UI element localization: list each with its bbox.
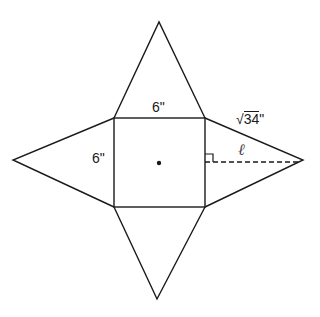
radical-sign: √ <box>236 111 244 127</box>
left-edge-label: 6" <box>92 151 105 165</box>
net-drawing <box>0 0 320 317</box>
triangle-bottom <box>114 207 205 299</box>
inch-unit: " <box>259 111 264 127</box>
center-dot <box>157 161 161 165</box>
pyramid-net-diagram: 6" 6" √34" ℓ <box>0 0 320 317</box>
radicand: 34 <box>244 111 260 126</box>
right-angle-marker <box>205 154 213 162</box>
slant-edge-label: √34" <box>236 111 264 126</box>
slant-height-label: ℓ <box>238 142 245 158</box>
top-edge-label: 6" <box>152 100 165 114</box>
